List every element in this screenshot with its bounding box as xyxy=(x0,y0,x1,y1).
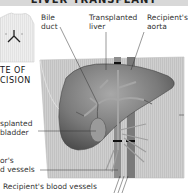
label-line: d vessels xyxy=(0,166,35,175)
label-recipients-blood-vessels: Recipient's blood vessels xyxy=(3,183,97,192)
torso-thumbnail xyxy=(0,13,34,62)
label-recipients-aorta: Recipient's aorta xyxy=(147,14,188,31)
label-site-of-incision: TE OF CISION xyxy=(0,66,31,86)
label-line: liver xyxy=(89,23,137,32)
label-bile-duct: Bile duct xyxy=(41,14,58,31)
label-transplanted-gallbladder: splanted bladder xyxy=(0,120,32,137)
label-line: TE OF xyxy=(0,66,31,76)
label-donors-blood-vessels: or's d vessels xyxy=(0,157,35,174)
transplanted-gallbladder xyxy=(90,118,106,142)
label-line: bladder xyxy=(0,129,32,138)
label-transplanted-liver: Transplanted liver xyxy=(89,14,137,31)
label-line: duct xyxy=(41,23,58,32)
label-line: aorta xyxy=(147,23,188,32)
label-line: CISION xyxy=(0,76,31,86)
